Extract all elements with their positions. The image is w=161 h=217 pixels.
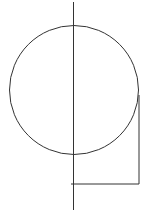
diagram-canvas — [0, 0, 161, 217]
